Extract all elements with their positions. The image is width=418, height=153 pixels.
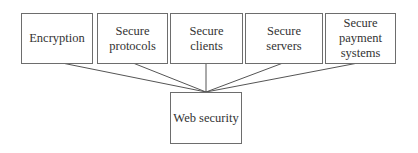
node-web-security: Web security xyxy=(170,92,242,144)
edge-secure-payment-systems xyxy=(206,63,358,92)
node-encryption: Encryption xyxy=(21,13,93,64)
edge-encryption xyxy=(62,63,206,92)
node-label: Encryption xyxy=(29,31,85,46)
node-secure-protocols: Secure protocols xyxy=(97,13,168,64)
edge-secure-servers xyxy=(206,63,283,92)
edge-secure-protocols xyxy=(133,63,206,92)
node-secure-clients: Secure clients xyxy=(170,13,243,64)
node-label: Secure protocols xyxy=(108,24,158,54)
node-label: Secure servers xyxy=(260,24,308,54)
node-label: Secure clients xyxy=(185,24,229,54)
node-secure-payment-systems: Secure payment systems xyxy=(325,13,396,64)
node-label: Web security xyxy=(173,111,238,126)
node-secure-servers: Secure servers xyxy=(245,13,323,64)
node-label: Secure payment systems xyxy=(335,16,387,61)
